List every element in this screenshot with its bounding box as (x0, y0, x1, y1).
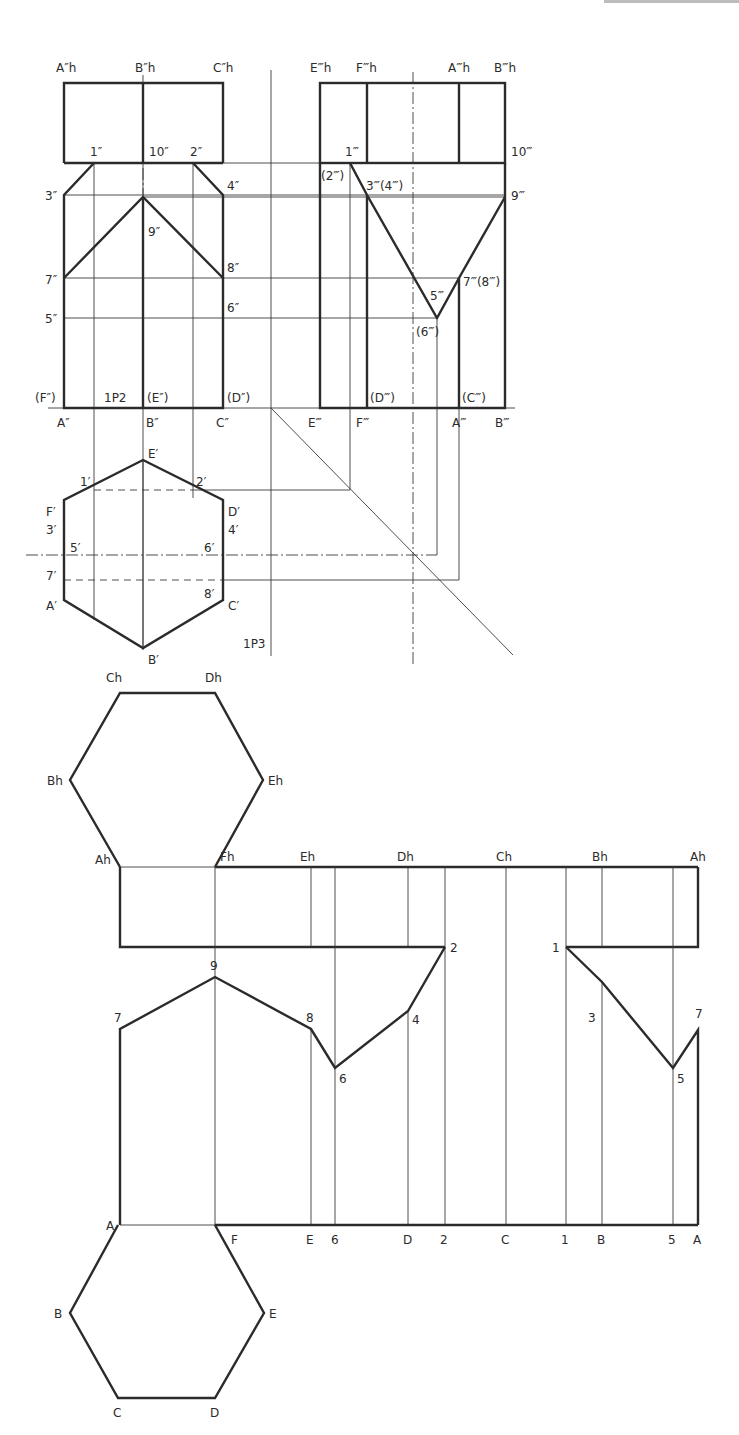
label-f-base: F (231, 1233, 238, 1247)
label-ah-edge: Ah (690, 850, 706, 864)
miter-line (271, 408, 513, 655)
label-8-top: 8′ (204, 587, 215, 601)
label-a-top: A′ (46, 599, 57, 613)
label-5-dev: 5 (677, 1072, 685, 1086)
label-plane-p3: 1P3 (243, 637, 266, 651)
label-bh-dev: Bh (47, 774, 63, 788)
label-ah-side: A‴h (448, 61, 470, 75)
label-78-side: 7‴(8‴) (463, 275, 500, 289)
label-b-top: B′ (148, 653, 159, 667)
label-b-base: B (597, 1233, 605, 1247)
label-b-side: B‴ (495, 416, 509, 430)
top-view: E′ 1′ 2′ F′ 3′ D′ 4′ 5′ 6′ 7′ 8′ A′ C′ B… (26, 447, 459, 667)
label-4-dev: 4 (412, 1013, 420, 1027)
label-6-front: 6″ (227, 301, 240, 315)
label-9-front: 9″ (148, 225, 161, 239)
label-d-side: (D‴) (370, 391, 395, 405)
label-a-front: A″ (57, 416, 70, 430)
front-view: A″h B″h C″h 1″ 10″ 2″ 3″ 4″ 9″ 7″ 8″ 5″ … (35, 61, 515, 650)
label-3-front: 3″ (45, 189, 58, 203)
label-d-top: D′ (228, 505, 240, 519)
label-6-side: (6‴) (416, 325, 439, 339)
label-c-side: (C‴) (462, 391, 486, 405)
label-f-top: F′ (46, 505, 56, 519)
label-c-top: C′ (228, 599, 239, 613)
label-dh-edge: Dh (397, 850, 414, 864)
label-ch-front: C″h (213, 61, 233, 75)
label-eh-edge: Eh (300, 850, 315, 864)
label-e-side: E‴ (308, 416, 322, 430)
label-7-top: 7′ (46, 569, 57, 583)
label-2-top: 2′ (196, 475, 207, 489)
label-fh-dev: Fh (220, 850, 235, 864)
label-2-dev: 2 (450, 941, 458, 955)
label-6-dev: 6 (339, 1072, 347, 1086)
label-1-dev: 1 (552, 941, 560, 955)
label-1-front: 1″ (90, 145, 103, 159)
label-a-side: A‴ (452, 416, 466, 430)
label-ah-dev: Ah (95, 853, 111, 867)
side-view: E‴h F‴h A‴h B‴h 1‴ 10‴ (2‴) 3‴(4‴) 9‴ 7‴… (308, 61, 533, 665)
label-c-base: C (501, 1233, 509, 1247)
development: Ch Dh Bh Eh Ah Fh Eh Dh Ch Bh Ah 9 7 8 6… (47, 671, 706, 1420)
label-f-side: F‴ (356, 416, 369, 430)
label-e-base: E (306, 1233, 314, 1247)
label-dh-dev: Dh (205, 671, 222, 685)
label-3-dev: 3 (588, 1011, 596, 1025)
label-5-base: 5 (668, 1233, 676, 1247)
label-2-base: 2 (440, 1233, 448, 1247)
label-9-dev: 9 (210, 959, 218, 973)
label-5-front: 5″ (45, 312, 58, 326)
label-plane-p2: 1P2 (104, 391, 127, 405)
label-bh-side: B‴h (494, 61, 516, 75)
label-3-top: 3′ (46, 523, 57, 537)
label-5-top: 5′ (70, 541, 81, 555)
technical-drawing: A″h B″h C″h 1″ 10″ 2″ 3″ 4″ 9″ 7″ 8″ 5″ … (0, 0, 739, 1435)
label-7-front: 7″ (45, 273, 58, 287)
label-1-side: 1‴ (345, 145, 359, 159)
label-e-top: E′ (148, 447, 159, 461)
label-fh-side: F‴h (356, 61, 377, 75)
label-9-side: 9‴ (511, 189, 525, 203)
label-e-hex: E (269, 1307, 277, 1321)
label-d-hex: D (210, 1406, 219, 1420)
label-4-front: 4″ (227, 179, 240, 193)
label-eh-side: E‴h (310, 61, 331, 75)
label-5-side: 5‴ (430, 289, 444, 303)
label-6-top: 6′ (204, 541, 215, 555)
label-34-side: 3‴(4‴) (366, 179, 403, 193)
label-2-front: 2″ (190, 145, 203, 159)
label-a-base-right: A (693, 1233, 702, 1247)
label-eh-dev: Eh (268, 774, 283, 788)
label-8-front: 8″ (227, 261, 240, 275)
label-8-dev: 8 (306, 1011, 314, 1025)
label-2-side: (2‴) (321, 169, 344, 183)
label-1-top: 1′ (80, 475, 91, 489)
label-c-hex: C (113, 1406, 121, 1420)
label-a-base-left: A (106, 1219, 115, 1233)
label-c-front: C″ (216, 416, 229, 430)
label-d-front: (D″) (227, 391, 250, 405)
label-f-front: (F″) (35, 391, 56, 405)
label-ch-dev: Ch (106, 671, 122, 685)
label-7-dev-left: 7 (114, 1011, 122, 1025)
label-1-base: 1 (561, 1233, 569, 1247)
label-bh-edge: Bh (592, 850, 608, 864)
label-bh-front: B″h (135, 61, 155, 75)
label-b-hex: B (54, 1307, 62, 1321)
label-b-front: B″ (146, 416, 159, 430)
label-ch-edge: Ch (496, 850, 512, 864)
label-7-dev-right: 7 (695, 1007, 703, 1021)
label-d-base: D (403, 1233, 412, 1247)
label-6-base: 6 (331, 1233, 339, 1247)
label-e-front: (E″) (147, 391, 168, 405)
label-10-front: 10″ (149, 145, 169, 159)
label-10-side: 10‴ (511, 145, 533, 159)
label-4-top: 4′ (228, 523, 239, 537)
label-ah-front: A″h (56, 61, 76, 75)
